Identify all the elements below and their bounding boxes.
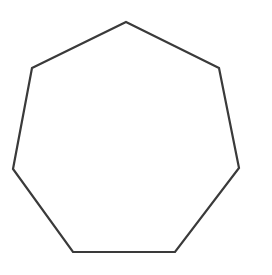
drawing-canvas (0, 0, 272, 275)
heptagon-figure (0, 0, 272, 275)
canvas-background (0, 0, 272, 275)
